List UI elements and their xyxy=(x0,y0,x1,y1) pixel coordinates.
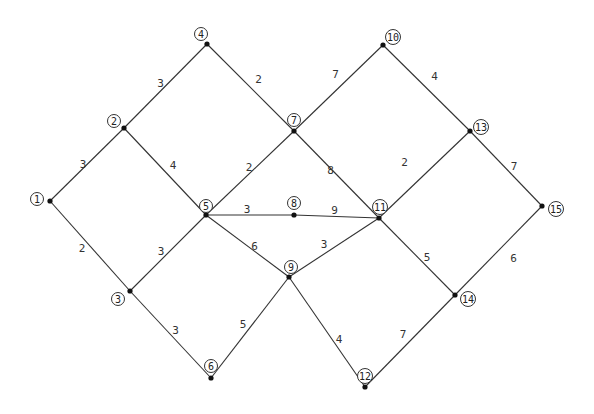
edge-weight-5-7: 2 xyxy=(246,161,253,174)
node-label: 2 xyxy=(111,116,117,127)
node-label: 15 xyxy=(550,204,562,215)
node-label: 6 xyxy=(208,361,214,372)
edge-weight-9-11: 3 xyxy=(321,238,328,251)
node-2: 2 xyxy=(108,115,127,131)
node-dot xyxy=(47,198,52,203)
node-8: 8 xyxy=(288,197,301,218)
node-6: 6 xyxy=(205,360,218,381)
edge-weight-2-4: 3 xyxy=(157,77,164,90)
edge-weight-11-13: 2 xyxy=(401,156,408,169)
edge-5-9 xyxy=(206,215,289,277)
node-label: 4 xyxy=(198,29,204,40)
weighted-graph: 3234332236578934425776 12345678910111213… xyxy=(0,0,594,414)
edge-10-13 xyxy=(383,45,470,131)
edge-weight-4-7: 2 xyxy=(255,73,262,86)
node-label: 1 xyxy=(34,194,40,205)
node-7: 7 xyxy=(288,114,301,134)
edge-weight-6-9: 5 xyxy=(240,318,247,331)
node-dot xyxy=(208,375,213,380)
edge-7-10 xyxy=(294,45,383,131)
node-dot xyxy=(539,203,544,208)
edge-2-4 xyxy=(124,44,207,128)
edge-weight-3-6: 3 xyxy=(172,324,179,337)
edge-14-15 xyxy=(455,206,542,295)
edge-weight-3-5: 3 xyxy=(158,245,165,258)
node-label: 10 xyxy=(387,32,399,43)
edge-3-6 xyxy=(130,291,211,378)
edge-13-15 xyxy=(470,131,542,206)
edge-weight-11-14: 5 xyxy=(424,251,431,264)
edge-9-11 xyxy=(289,218,379,277)
node-dot xyxy=(467,128,472,133)
node-dot xyxy=(204,41,209,46)
edge-1-2 xyxy=(50,128,124,201)
edge-weight-7-10: 7 xyxy=(332,68,339,81)
node-label: 3 xyxy=(115,294,121,305)
node-1: 1 xyxy=(31,193,53,206)
node-3: 3 xyxy=(112,288,133,305)
node-label: 9 xyxy=(288,262,294,273)
node-dot xyxy=(291,212,296,217)
edge-11-13 xyxy=(379,131,470,218)
edge-weight-7-11: 8 xyxy=(327,164,334,177)
edge-weight-10-13: 4 xyxy=(431,70,438,83)
node-label: 14 xyxy=(462,294,474,305)
node-dot xyxy=(286,274,291,279)
node-9: 9 xyxy=(285,261,298,280)
edge-4-7 xyxy=(207,44,294,131)
edge-1-3 xyxy=(50,201,130,291)
node-dot xyxy=(127,288,132,293)
node-dot xyxy=(362,384,367,389)
node-13: 13 xyxy=(467,120,488,135)
edge-weight-13-15: 7 xyxy=(511,160,518,173)
node-dot xyxy=(121,125,126,130)
nodes-layer: 123456789101112131415 xyxy=(31,28,564,390)
edge-11-14 xyxy=(379,218,455,295)
edge-weight-5-9: 6 xyxy=(251,240,258,253)
node-label: 8 xyxy=(291,198,297,209)
edge-9-12 xyxy=(289,277,365,387)
edge-3-5 xyxy=(130,215,206,291)
edge-6-9 xyxy=(211,277,289,378)
node-label: 12 xyxy=(359,371,371,382)
node-label: 5 xyxy=(203,201,209,212)
edge-weight-2-5: 4 xyxy=(170,159,177,172)
node-label: 13 xyxy=(475,122,487,133)
node-12: 12 xyxy=(358,369,373,390)
node-label: 7 xyxy=(291,115,297,126)
node-dot xyxy=(203,212,208,217)
node-label: 11 xyxy=(374,202,386,213)
edge-2-5 xyxy=(124,128,206,215)
node-dot xyxy=(452,292,457,297)
node-15: 15 xyxy=(539,202,563,217)
edge-weight-1-3: 2 xyxy=(79,242,86,255)
node-4: 4 xyxy=(195,28,210,47)
node-dot xyxy=(376,215,381,220)
node-14: 14 xyxy=(452,292,475,307)
edge-12-14 xyxy=(365,295,455,387)
node-10: 10 xyxy=(380,30,400,48)
edge-weight-12-14: 7 xyxy=(400,328,407,341)
edge-weight-14-15: 6 xyxy=(510,252,517,265)
edge-weight-9-12: 4 xyxy=(336,333,343,346)
node-dot xyxy=(380,42,385,47)
edge-weight-1-2: 3 xyxy=(80,158,87,171)
edge-weight-8-11: 9 xyxy=(331,204,338,217)
node-dot xyxy=(291,128,296,133)
edge-weight-5-8: 3 xyxy=(244,203,251,216)
